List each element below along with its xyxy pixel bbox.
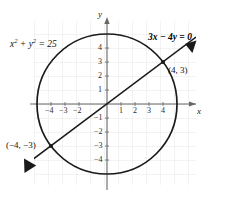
circle-eq-part-value: = 25 <box>36 39 57 49</box>
y-tick-label-1: 1 <box>98 86 102 94</box>
math-figure: x2 + y2 = 25 3x − 4y = 0 (4, 3) (−4, −3)… <box>0 0 225 198</box>
x-tick-label-1: 1 <box>119 107 123 115</box>
point-marker-4-3 <box>161 60 165 64</box>
point-label-lower: (−4, −3) <box>6 141 36 150</box>
plot-canvas <box>0 0 225 198</box>
y-tick-label-neg3: −3 <box>94 142 103 150</box>
y-tick-label-3: 3 <box>98 58 102 66</box>
x-axis-label: x <box>197 107 201 116</box>
x-tick-label-2: 2 <box>133 107 137 115</box>
y-tick-label-neg1: −1 <box>94 114 103 122</box>
circle-eq-part-y: + y <box>17 39 32 49</box>
x-tick-label-3: 3 <box>147 107 151 115</box>
x-tick-label-4: 4 <box>161 107 165 115</box>
x-tick-label-neg2: −2 <box>73 107 82 115</box>
y-axis-arrowhead <box>104 17 109 24</box>
y-tick-label-neg4: −4 <box>94 156 103 164</box>
grid-lines <box>34 21 196 185</box>
y-tick-label-neg2: −2 <box>94 128 103 136</box>
x-tick-label-neg4: −4 <box>45 107 54 115</box>
point-label-upper: (4, 3) <box>168 66 188 75</box>
point-marker-neg4-neg3 <box>49 144 53 148</box>
x-tick-label-neg3: −3 <box>59 107 68 115</box>
y-tick-label-4: 4 <box>98 44 102 52</box>
circle-equation-label: x2 + y2 = 25 <box>10 40 57 50</box>
y-tick-label-2: 2 <box>98 72 102 80</box>
line-equation-label: 3x − 4y = 0 <box>148 33 192 43</box>
y-axis-label: y <box>98 10 102 19</box>
